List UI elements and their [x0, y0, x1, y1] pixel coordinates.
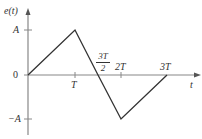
tick-label-minus-A: −A: [8, 114, 21, 124]
y-axis-label: e(t): [4, 6, 18, 16]
tick-label-0: 0: [13, 70, 18, 80]
tick-label-3T: 3T: [160, 62, 171, 72]
x-axis-arrow-icon: [194, 73, 201, 78]
y-axis-arrow-icon: [26, 8, 31, 15]
fraction-denominator: 2: [101, 63, 106, 73]
tick-label-A: A: [13, 25, 19, 35]
x-axis-label: t: [190, 80, 193, 90]
tick-label-2T: 2T: [115, 62, 126, 72]
tick-label-3T-over-2: 3T 2: [96, 52, 110, 73]
tick-label-T: T: [71, 80, 77, 90]
fraction-numerator: 3T: [98, 51, 108, 61]
